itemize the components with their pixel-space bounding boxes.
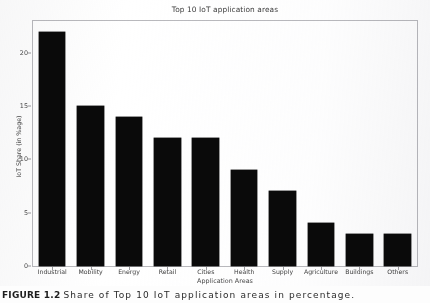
bar-slot <box>149 21 186 266</box>
x-tick-mark <box>321 267 322 270</box>
bar-slot <box>187 21 224 266</box>
y-tick-mark <box>28 106 31 107</box>
bar[interactable] <box>77 106 104 266</box>
x-tick-mark <box>244 267 245 270</box>
y-tick-mark <box>28 266 31 267</box>
y-tick-mark <box>28 52 31 53</box>
bar[interactable] <box>231 170 258 266</box>
y-tick-mark <box>28 159 31 160</box>
bar[interactable] <box>346 234 373 266</box>
x-tick-mark <box>398 267 399 270</box>
bar-slot <box>379 21 416 266</box>
y-axis-label: IoT Share (in %age) <box>15 87 22 207</box>
bar[interactable] <box>308 223 335 266</box>
bar-slot <box>111 21 148 266</box>
x-tick-mark <box>91 267 92 270</box>
y-tick-label: 0 <box>0 262 28 270</box>
bar-slot <box>72 21 109 266</box>
x-tick-mark <box>129 267 130 270</box>
figure-container: Top 10 IoT application areas 05101520 Io… <box>0 0 430 286</box>
bar-slot <box>264 21 301 266</box>
bar-slot <box>341 21 378 266</box>
bar[interactable] <box>116 117 143 266</box>
figure-caption-text: Share of Top 10 IoT application areas in… <box>63 291 355 300</box>
bar-slot <box>226 21 263 266</box>
bar[interactable] <box>192 138 219 266</box>
x-axis-label: Application Areas <box>32 277 418 285</box>
bar[interactable] <box>39 32 66 266</box>
chart-title: Top 10 IoT application areas <box>32 5 418 14</box>
figure-caption-label: FIGURE 1.2 <box>2 291 60 300</box>
x-tick-mark <box>206 267 207 270</box>
bar-slot <box>303 21 340 266</box>
bar[interactable] <box>269 191 296 266</box>
plot-area <box>33 21 417 266</box>
x-tick-mark <box>52 267 53 270</box>
x-tick-mark <box>283 267 284 270</box>
bar[interactable] <box>154 138 181 266</box>
y-tick-mark <box>28 212 31 213</box>
x-tick-mark <box>167 267 168 270</box>
bar-series <box>33 21 417 266</box>
y-tick-label: 5 <box>0 209 28 217</box>
figure-caption-strip: FIGURE 1.2 Share of Top 10 IoT applicati… <box>0 291 430 303</box>
y-tick-label: 20 <box>0 49 28 57</box>
bar-slot <box>34 21 71 266</box>
x-tick-mark <box>359 267 360 270</box>
figure-caption: FIGURE 1.2 Share of Top 10 IoT applicati… <box>2 291 355 300</box>
bar[interactable] <box>384 234 411 266</box>
